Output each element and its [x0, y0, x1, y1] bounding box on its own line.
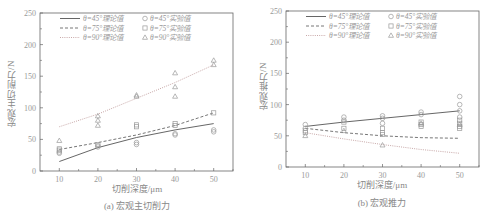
triangle-data-marker: [57, 138, 62, 142]
y-tick-label: 250: [24, 9, 36, 18]
x-tick-label: 10: [55, 175, 63, 184]
legend-label: θ=90°实验值: [150, 33, 192, 42]
triangle-data-marker: [173, 94, 178, 98]
legend-label: θ=75°理论值: [329, 22, 371, 31]
x-axis-label-b: 切削深度/μm: [322, 178, 442, 191]
triangle-data-marker: [173, 84, 178, 88]
y-tick-label: 150: [270, 69, 282, 78]
circle-data-marker: [380, 121, 385, 126]
legend-label: θ=75°实验值: [396, 22, 438, 31]
triangle-data-marker: [134, 93, 139, 97]
triangle-data-marker: [173, 70, 178, 74]
theory-line-solid: [305, 111, 459, 127]
legend-label: θ=45°理论值: [83, 14, 125, 23]
circle-data-marker: [457, 115, 462, 120]
triangle-data-marker: [211, 62, 216, 66]
legend-label: θ=90°理论值: [329, 31, 371, 40]
theory-line-solid: [59, 124, 213, 162]
x-tick-label: 50: [456, 171, 464, 180]
legend-label: θ=45°理论值: [329, 12, 371, 21]
y-tick-label: 200: [24, 41, 36, 50]
legend-label: θ=75°实验值: [150, 24, 192, 33]
legend-square-icon: [143, 26, 147, 30]
square-data-marker: [380, 126, 384, 130]
y-tick-label: 100: [24, 104, 36, 113]
chart-panel-a: 0501001502002501020304050θ=45°理论值θ=75°理论…: [0, 0, 242, 222]
square-data-marker: [212, 111, 216, 115]
theory-line-dashed: [59, 113, 213, 150]
x-tick-label: 10: [301, 171, 309, 180]
legend-circle-icon: [389, 14, 394, 19]
plot-frame: [286, 11, 479, 167]
y-tick-label: 0: [32, 167, 36, 176]
y-tick-label: 150: [24, 72, 36, 81]
triangle-data-marker: [95, 118, 100, 122]
y-tick-label: 0: [278, 163, 282, 172]
circle-data-marker: [457, 94, 462, 99]
y-tick-label: 100: [270, 101, 282, 110]
legend: θ=45°理论值θ=75°理论值θ=90°理论值θ=45°实验值θ=75°实验值…: [60, 14, 192, 42]
legend-label: θ=45°实验值: [150, 14, 192, 23]
legend-square-icon: [389, 24, 393, 28]
y-tick-label: 250: [270, 7, 282, 16]
legend-triangle-icon: [143, 35, 148, 39]
legend-circle-icon: [143, 16, 148, 21]
triangle-data-marker: [95, 123, 100, 127]
y-axis-label-b: 宏观推力/N: [256, 62, 269, 110]
caption-b: (b) 宏观推力: [312, 196, 452, 209]
legend-label: θ=45°实验值: [396, 12, 438, 21]
circle-data-marker: [457, 102, 462, 107]
y-tick-label: 200: [270, 38, 282, 47]
legend: θ=45°理论值θ=75°理论值θ=90°理论值θ=45°实验值θ=75°实验值…: [306, 12, 438, 40]
x-tick-label: 50: [210, 175, 218, 184]
legend-label: θ=90°理论值: [83, 33, 125, 42]
legend-label: θ=90°实验值: [396, 31, 438, 40]
y-axis-label-a: 宏观主切削力/N: [4, 60, 17, 127]
y-tick-label: 50: [274, 132, 282, 141]
x-axis-label-a: 切削深度/μm: [77, 182, 197, 195]
legend-label: θ=75°理论值: [83, 24, 125, 33]
legend-triangle-icon: [389, 33, 394, 37]
y-tick-label: 50: [28, 135, 36, 144]
caption-a: (a) 宏观主切削力: [67, 199, 207, 212]
chart-panel-b: 0501001502002501020304050θ=45°理论值θ=75°理论…: [242, 0, 483, 222]
theory-line-dotted: [59, 65, 213, 127]
